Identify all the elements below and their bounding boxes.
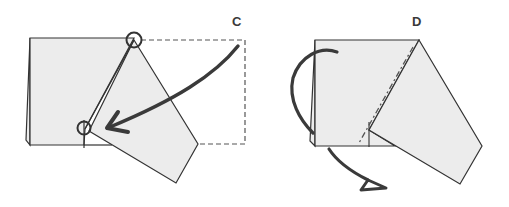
step-label-d: D [412, 15, 421, 28]
step-label-c: C [232, 15, 241, 28]
fold-behind-arrow-head-icon [361, 180, 386, 190]
origami-diagram: C D [0, 0, 509, 207]
step-d-panel [292, 40, 482, 190]
fold-behind-arrow-tail [329, 149, 368, 180]
diagram-canvas [0, 0, 509, 207]
step-c-panel [26, 33, 245, 184]
